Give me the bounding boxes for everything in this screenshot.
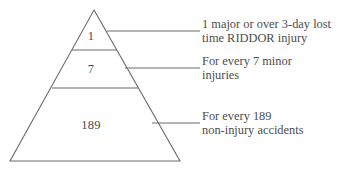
callout-label-middle: For every 7 minor injuries <box>202 55 292 83</box>
callout-label-bottom-line-2: non-injury accidents <box>202 124 304 138</box>
callout-label-top-line-2: time RIDDOR injury <box>202 32 331 46</box>
callout-label-top-line-1: 1 major or over 3-day lost <box>202 18 331 32</box>
callout-label-bottom-line-1: For every 189 <box>202 110 304 124</box>
callout-label-bottom: For every 189 non-injury accidents <box>202 110 304 138</box>
pyramid-tier-value-middle: 7 <box>74 62 108 77</box>
callout-label-middle-line-2: injuries <box>202 69 292 83</box>
pyramid-tier-value-bottom: 189 <box>66 118 116 133</box>
callout-label-top: 1 major or over 3-day lost time RIDDOR i… <box>202 18 331 46</box>
callout-label-middle-line-1: For every 7 minor <box>202 55 292 69</box>
pyramid-tier-value-top: 1 <box>74 29 108 44</box>
diagram-canvas: 1 7 189 1 major or over 3-day lost time … <box>0 0 353 173</box>
